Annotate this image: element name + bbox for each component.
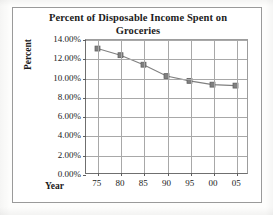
x-axis-tick-label: 05 [224,178,248,188]
gridline-horizontal [86,98,247,99]
x-axis-tick [214,173,215,176]
gridline-vertical [121,40,122,173]
y-axis-tick [83,59,86,60]
chart-frame: Percent of Disposable Income Spent on Gr… [12,7,262,203]
chart-title-line-1: Percent of Disposable Income Spent on [27,12,249,25]
y-axis-tick [83,98,86,99]
x-axis-tick [144,173,145,176]
y-axis-tick-label: 0.00% [35,169,81,179]
gridline-vertical [98,40,99,173]
x-axis-tick-label: 80 [108,178,132,188]
y-axis-tick-label: 6.00% [35,111,81,121]
y-axis-title: Percent [23,39,33,70]
y-axis-tick-label: 10.00% [35,73,81,83]
y-axis-tick [83,79,86,80]
gridline-vertical [214,40,215,173]
plot-area [85,39,248,174]
x-axis-tick [168,173,169,176]
gridline-horizontal [86,79,247,80]
x-axis-tick-label: 95 [178,178,202,188]
x-axis-tick [98,173,99,176]
gridline-horizontal [86,156,247,157]
y-axis-tick-label: 8.00% [35,92,81,102]
x-axis-tick-label: 75 [85,178,109,188]
x-axis-tick-labels: 75808590950005 [85,178,248,194]
y-axis-tick-label: 4.00% [35,130,81,140]
chart-screenshot: Percent of Disposable Income Spent on Gr… [0,0,273,215]
x-axis-tick-label: 00 [201,178,225,188]
y-axis-tick-label: 12.00% [35,53,81,63]
x-axis-title: Year [45,181,64,191]
y-axis-tick-label: 14.00% [35,34,81,44]
gridline-horizontal [86,59,247,60]
y-axis-tick [83,156,86,157]
x-axis-tick [191,173,192,176]
y-axis-tick [83,175,86,176]
x-axis-tick-label: 90 [155,178,179,188]
gridline-vertical [191,40,192,173]
gridline-horizontal [86,117,247,118]
gridline-vertical [237,40,238,173]
y-axis-tick-label: 2.00% [35,150,81,160]
y-axis-tick-labels: 14.00%12.00%10.00%8.00%6.00%4.00%2.00%0.… [35,32,81,182]
x-axis-tick [121,173,122,176]
y-axis-tick [83,40,86,41]
gridline-horizontal [86,136,247,137]
y-axis-tick [83,136,86,137]
gridline-vertical [144,40,145,173]
x-axis-tick [237,173,238,176]
y-axis-tick [83,117,86,118]
gridline-vertical [168,40,169,173]
x-axis-tick-label: 85 [131,178,155,188]
gridline-horizontal [86,40,247,41]
